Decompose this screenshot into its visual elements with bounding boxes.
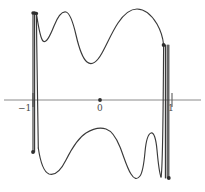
tick-label-zero: 0: [97, 104, 103, 113]
endpoint-dot-top-left-c: [35, 12, 38, 15]
origin-dot: [98, 98, 102, 102]
endpoint-dot-bottom-left: [31, 150, 35, 154]
tick-label-one: 1: [168, 104, 174, 113]
endpoint-dot-top-right: [162, 43, 166, 47]
function-graph-figure: −1 0 1: [0, 0, 205, 192]
tick-label-neg-one: −1: [18, 104, 31, 113]
curve-group: [33, 9, 169, 178]
plot-canvas: [0, 0, 205, 192]
endpoint-dot-bottom-right: [167, 176, 171, 180]
left-oscillation-path: [33, 13, 38, 152]
main-curve-path: [38, 128, 161, 178]
upper-branch-path: [36, 9, 163, 64]
